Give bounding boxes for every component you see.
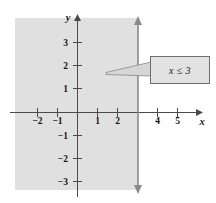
inequality-callout-box: x ≤ 3 [150, 56, 210, 84]
solution-region-shading [15, 18, 138, 190]
y-tick-label-1: 1 [63, 84, 68, 94]
inequality-callout-label: x ≤ 3 [169, 65, 191, 76]
y-tick-label--2: −2 [58, 154, 68, 164]
x-tick-label-4: 4 [155, 116, 160, 126]
x-tick-label--1: −1 [52, 116, 62, 126]
x-tick-label--2: −2 [32, 116, 42, 126]
inequality-graph-figure: −2 −1 1 2 4 5 3 2 1 −1 −2 −3 x y x ≤ 3 [0, 0, 216, 203]
x-tick-label-1: 1 [95, 116, 100, 126]
y-axis-label: y [64, 12, 71, 23]
y-tick-label-3: 3 [63, 38, 68, 48]
x-tick-label-2: 2 [115, 116, 120, 126]
y-tick-label--1: −1 [58, 131, 68, 141]
y-tick-label--3: −3 [58, 177, 68, 187]
y-tick-label-2: 2 [63, 61, 68, 71]
x-axis-label: x [198, 116, 204, 127]
x-tick-label-5: 5 [175, 116, 180, 126]
coordinate-plane: −2 −1 1 2 4 5 3 2 1 −1 −2 −3 x y [0, 0, 216, 203]
